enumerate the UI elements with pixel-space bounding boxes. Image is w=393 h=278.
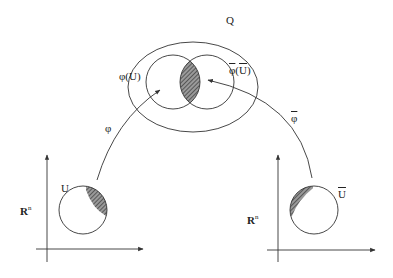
right-rn-exp: n <box>255 213 259 221</box>
ubar-label: U <box>338 188 346 200</box>
phi-arrow <box>97 90 160 180</box>
phibar-map-label: φ <box>291 112 297 124</box>
ubar-circle <box>290 186 338 234</box>
phi-u-label: φ(U) <box>119 70 141 82</box>
diagram-svg <box>0 0 393 278</box>
left-rn-exp: n <box>28 204 32 212</box>
left-rn-label: Rn <box>20 204 31 217</box>
u-label: U <box>61 182 69 194</box>
right-rn-label: Rn <box>247 213 258 226</box>
left-rn-base: R <box>20 205 28 217</box>
manifold-q-label: Q <box>226 14 234 26</box>
ubar-arg: (U) <box>235 64 250 76</box>
phi-map-label: φ <box>105 122 111 134</box>
phibar-ubar-label: φ(U) <box>229 64 251 76</box>
ubar-arg-letter: U <box>239 64 247 76</box>
diagram-canvas: Q φ(U) φ(U) φ φ U U Rn Rn <box>0 0 393 278</box>
phibar-arrow <box>208 80 312 178</box>
u-hatched-region <box>86 186 110 216</box>
right-rn-base: R <box>247 214 255 226</box>
